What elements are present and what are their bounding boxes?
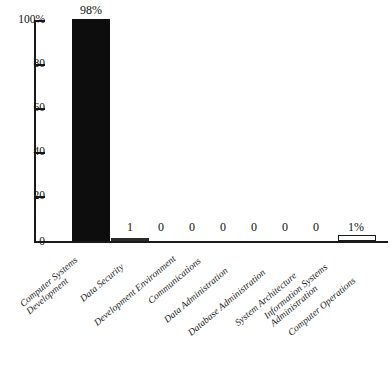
category-labels-layer: Computer Systems Development Data Securi… (0, 0, 392, 376)
bar-chart: 100% 80 60 40 20 0 98% 1 (0, 0, 392, 376)
category-label-computer-systems-development: Computer Systems Development (18, 255, 86, 317)
